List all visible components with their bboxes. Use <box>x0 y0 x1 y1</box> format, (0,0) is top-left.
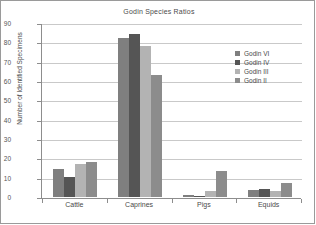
bar-group <box>108 23 173 197</box>
y-tick-label: 50 <box>0 97 11 104</box>
bar <box>259 189 270 197</box>
legend-item: Godin III <box>235 67 269 76</box>
chart-title: Godin Species Ratios <box>1 8 316 15</box>
legend-swatch-icon <box>235 60 240 65</box>
y-tick-label: 40 <box>0 117 11 124</box>
y-tick-mark <box>37 82 41 83</box>
legend-label: Godin II <box>244 77 267 84</box>
y-tick-label: 30 <box>0 136 11 143</box>
bar-group <box>173 23 238 197</box>
y-tick-mark <box>37 121 41 122</box>
y-tick-label: 90 <box>0 20 11 27</box>
bar <box>270 191 281 197</box>
y-tick-mark <box>37 140 41 141</box>
bar <box>64 177 75 197</box>
legend-swatch-icon <box>235 51 240 56</box>
legend-item: Godin VI <box>235 49 269 58</box>
bar <box>281 183 292 197</box>
x-tick-mark <box>107 199 108 203</box>
bar <box>216 171 227 197</box>
legend-label: Godin III <box>244 68 269 75</box>
bar <box>118 38 129 197</box>
bar <box>129 34 140 197</box>
y-tick-mark <box>37 63 41 64</box>
x-tick-mark <box>42 199 43 203</box>
legend-swatch-icon <box>235 69 240 74</box>
x-tick-label: Equids <box>236 201 301 208</box>
legend-swatch-icon <box>235 78 240 83</box>
legend-label: Godin IV <box>244 59 269 66</box>
x-tick-label: Cattle <box>42 201 107 208</box>
y-tick-mark <box>37 43 41 44</box>
bar <box>75 164 86 197</box>
bar <box>53 169 64 197</box>
y-tick-mark <box>37 198 41 199</box>
y-tick-label: 0 <box>0 194 11 201</box>
legend-label: Godin VI <box>244 50 269 57</box>
bar <box>194 196 205 197</box>
legend-item: Godin II <box>235 76 269 85</box>
y-tick-label: 80 <box>0 39 11 46</box>
bar <box>140 46 151 197</box>
y-tick-mark <box>37 159 41 160</box>
chart-frame: Godin Species Ratios Number of Identifie… <box>0 0 315 224</box>
y-tick-mark <box>37 101 41 102</box>
chart-legend: Godin VIGodin IVGodin IIIGodin II <box>235 49 269 85</box>
bar <box>205 191 216 197</box>
y-tick-label: 60 <box>0 78 11 85</box>
x-tick-mark <box>172 199 173 203</box>
y-tick-label: 20 <box>0 155 11 162</box>
bar-group <box>43 23 108 197</box>
y-tick-label: 10 <box>0 175 11 182</box>
legend-item: Godin IV <box>235 58 269 67</box>
y-tick-mark <box>37 179 41 180</box>
bar <box>183 195 194 197</box>
y-tick-label: 70 <box>0 59 11 66</box>
bar <box>86 162 97 197</box>
x-tick-label: Pigs <box>172 201 237 208</box>
y-axis-title: Number of Identified Specimens <box>16 9 23 149</box>
y-tick-mark <box>37 24 41 25</box>
bar <box>248 190 259 197</box>
x-tick-mark <box>301 199 302 203</box>
x-tick-mark <box>236 199 237 203</box>
x-tick-label: Caprines <box>107 201 172 208</box>
bar <box>151 75 162 197</box>
